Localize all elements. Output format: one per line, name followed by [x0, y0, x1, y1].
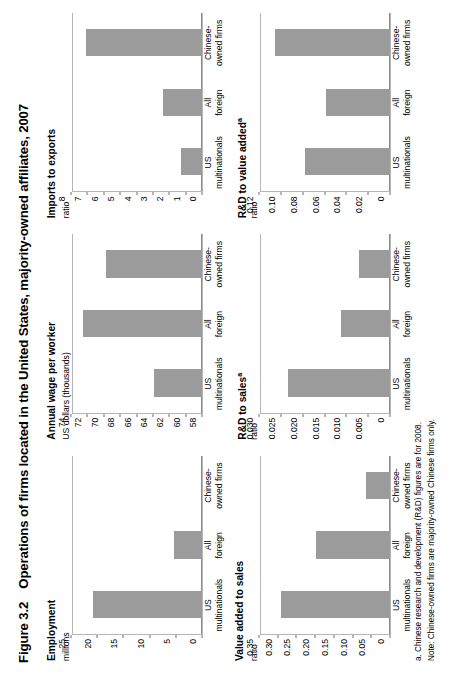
footnote-marker: a: [236, 118, 243, 122]
y-tick-mark: [259, 192, 260, 195]
category-label-line2: owned firms: [214, 462, 225, 508]
bar-employment-1: [174, 531, 202, 558]
bar-rd-to-sales-0: [288, 369, 390, 396]
rotated-figure-canvas: Figure 3.2 Operations of firms located i…: [0, 0, 451, 679]
figure-title-row: Figure 3.2 Operations of firms located i…: [16, 104, 31, 663]
category-label-line1: Chinese-: [203, 247, 213, 281]
y-tick-mark: [352, 635, 353, 638]
chart-title-employment: Employment: [45, 456, 59, 661]
plot-box-annual-wage-per-worker: [72, 234, 203, 413]
category-axis-imports-to-exports: USmultinationalsAllforeignChinese-owned …: [203, 13, 229, 192]
y-tick-label: 0.35: [245, 639, 255, 656]
category-label-2: Chinese-owned firms: [391, 462, 412, 508]
category-label-line2: multinationals: [214, 136, 225, 189]
category-label-2: Chinese-owned firms: [203, 462, 224, 508]
plot-box-imports-to-exports: [72, 13, 203, 192]
category-label-line1: All: [391, 98, 401, 108]
y-tick-mark: [202, 414, 203, 417]
y-tick-mark: [87, 192, 88, 195]
bar-rd-to-sales-2: [359, 250, 390, 277]
y-tick-label: 0.05: [357, 639, 367, 656]
category-label-1: Allforeign: [203, 90, 224, 116]
y-tick-mark: [324, 414, 325, 417]
y-tick-label: 70: [90, 418, 100, 428]
category-label-line2: owned firms: [402, 462, 413, 508]
y-tick-label: 0.15: [320, 639, 330, 656]
y-tick-label: 0.10: [339, 639, 349, 656]
y-tick-mark: [390, 192, 391, 195]
y-tick-label: 72: [73, 418, 83, 428]
bar-annual-wage-per-worker-1: [83, 310, 202, 337]
y-tick-mark: [259, 414, 260, 417]
y-axis-rd-to-sales: 00.0050.0100.0150.0200.0250.030: [260, 414, 391, 440]
chart-title-value-added-to-sales: Value added to sales: [233, 456, 247, 661]
y-tick-label: 0.030: [245, 418, 255, 440]
y-tick-label: 62: [155, 418, 165, 428]
footnote-a: a. Chinese research and development (R&D…: [412, 21, 425, 661]
y-tick-label: 0.12: [245, 196, 255, 213]
category-label-line2: multinationals: [214, 579, 225, 632]
y-tick-mark: [97, 635, 98, 638]
y-tick-label: 0.06: [311, 196, 321, 213]
y-tick-mark: [71, 192, 72, 195]
plot-area-rd-to-value-added: 00.020.040.060.080.100.12: [260, 13, 391, 218]
category-label-0: USmultinationals: [391, 136, 412, 189]
y-tick-label: 0.020: [289, 418, 299, 440]
category-label-0: USmultinationals: [203, 136, 224, 189]
category-label-line1: Chinese-: [391, 247, 401, 281]
category-label-line1: All: [391, 319, 401, 329]
y-tick-label: 8: [57, 196, 67, 201]
category-label-line1: US: [391, 156, 401, 168]
y-tick-label: 0.20: [301, 639, 311, 656]
category-label-line2: multinationals: [214, 358, 225, 411]
category-label-line1: All: [203, 541, 213, 551]
y-tick-label: 64: [139, 418, 149, 428]
y-tick-mark: [346, 414, 347, 417]
y-tick-label: 25: [57, 639, 67, 649]
y-tick-mark: [346, 192, 347, 195]
category-label-line2: foreign: [214, 532, 225, 558]
category-label-2: Chinese-owned firms: [203, 241, 224, 287]
chart-title-rd-to-sales: R&D to salesa: [233, 234, 247, 439]
y-tick-mark: [120, 192, 121, 195]
y-tick-label: 0: [188, 639, 198, 644]
y-tick-label: 0.005: [354, 418, 364, 440]
axis-unit-label-imports-to-exports: ratio: [60, 13, 72, 218]
axis-unit-label-rd-to-sales: ratio: [248, 234, 260, 439]
category-label-2: Chinese-owned firms: [203, 20, 224, 66]
bar-value-added-to-sales-2: [366, 472, 390, 499]
y-tick-mark: [120, 414, 121, 417]
axis-unit-label-annual-wage-per-worker: US dollars (thousands): [60, 234, 72, 439]
y-tick-mark: [103, 192, 104, 195]
y-axis-imports-to-exports: 012345678: [72, 192, 203, 218]
y-tick-mark: [149, 635, 150, 638]
category-label-1: Allforeign: [391, 311, 412, 337]
y-tick-label: 0: [376, 418, 386, 423]
plot-area-value-added-to-sales: 00.050.100.150.200.250.300.35: [260, 456, 391, 661]
y-tick-label: 10: [136, 639, 146, 649]
y-tick-mark: [123, 635, 124, 638]
chart-panel-value-added-to-sales: Value added to salesratio00.050.100.150.…: [233, 456, 417, 661]
bar-rd-to-sales-1: [341, 310, 390, 337]
plot-area-imports-to-exports: 012345678: [72, 13, 203, 218]
y-tick-mark: [71, 414, 72, 417]
chart-panel-imports-to-exports: Imports to exportsratio012345678USmultin…: [45, 13, 229, 218]
footnotes: a. Chinese research and development (R&D…: [412, 21, 438, 661]
category-label-line1: Chinese-: [391, 26, 401, 60]
y-tick-label: 7: [73, 196, 83, 201]
chart-panel-rd-to-sales: R&D to salesaratio00.0050.0100.0150.0200…: [233, 234, 417, 439]
y-tick-mark: [169, 414, 170, 417]
y-tick-label: 58: [188, 418, 198, 428]
y-tick-label: 0: [376, 196, 386, 201]
category-label-1: Allforeign: [203, 311, 224, 337]
category-label-line1: All: [391, 541, 401, 551]
category-label-2: Chinese-owned firms: [391, 241, 412, 287]
category-label-line2: foreign: [402, 90, 413, 116]
y-tick-label: 60: [172, 418, 182, 428]
y-tick-mark: [333, 635, 334, 638]
category-label-line2: foreign: [214, 311, 225, 337]
y-tick-mark: [302, 192, 303, 195]
category-label-line1: US: [203, 156, 213, 168]
y-axis-annual-wage-per-worker: 586062646668707274: [72, 414, 203, 440]
footnote-marker: a: [236, 373, 243, 377]
